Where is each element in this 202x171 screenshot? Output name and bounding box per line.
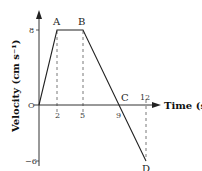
point-label-c: C [121, 92, 129, 103]
velocity-line [39, 30, 146, 161]
x-tick-label-12: 12 [140, 93, 150, 102]
point-label-b: B [78, 16, 85, 27]
point-label-d: D [142, 163, 150, 171]
y-axis-label: Velocity (cm s⁻¹) [10, 40, 21, 133]
y-tick-label-8: 8 [29, 26, 34, 35]
point-label-a: A [52, 16, 61, 27]
x-axis-label: Time (s) [164, 100, 202, 111]
x-tick-label-9: 9 [116, 111, 121, 120]
y-axis-arrow-icon [36, 10, 42, 19]
x-tick-label-5: 5 [80, 111, 85, 120]
x-tick-label-2: 2 [55, 111, 60, 120]
velocity-time-chart: 8 O −6 2 5 9 12 A B C D Time (s) Velocit… [0, 0, 202, 171]
y-tick-label-neg6: −6 [25, 157, 37, 166]
x-axis-arrow-icon [152, 102, 161, 108]
dashed-guides [57, 31, 146, 160]
origin-label: O [28, 101, 35, 110]
